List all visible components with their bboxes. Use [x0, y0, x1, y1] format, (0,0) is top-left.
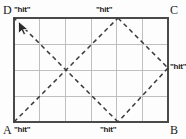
diagram-canvas: D "hit" "hit" C "hit" A "hit" "hit" B [0, 0, 186, 139]
path-segment-top-to-right [118, 18, 168, 68]
hit-label-right-edge: "hit" [170, 63, 186, 71]
mouse-pointer-icon [19, 22, 28, 35]
vertex-label-b: B [170, 124, 178, 136]
vertex-label-a: A [3, 124, 12, 136]
grid-lines [14, 18, 168, 122]
hit-label-top-edge: "hit" [96, 6, 112, 14]
hit-label-top-left: "hit" [14, 6, 30, 14]
hit-label-bottom-left: "hit" [14, 126, 30, 134]
path-segment-right-to-bottom [118, 68, 168, 122]
vertex-label-d: D [3, 4, 12, 16]
vertex-label-c: C [170, 4, 178, 16]
bounce-path-svg [0, 0, 186, 139]
hit-label-bottom-edge: "hit" [100, 126, 116, 134]
